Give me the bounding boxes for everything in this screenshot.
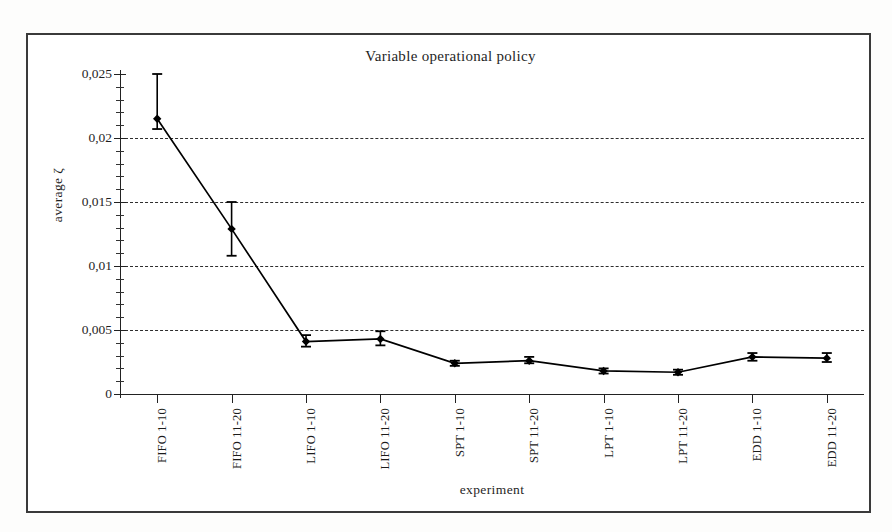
data-series [120, 74, 864, 394]
y-axis-tick-label: 0,015 [0, 195, 112, 209]
x-axis-tick [455, 394, 456, 403]
series-line [157, 119, 827, 372]
y-axis-tick-label: 0,02 [0, 131, 112, 145]
x-axis-tick-label: LIFO 1-10 [305, 408, 318, 464]
x-axis-tick-label: LPT 11-20 [677, 408, 690, 464]
plot-area: 0,0250,020,0150,010,0050 FIFO 1-10FIFO 1… [120, 74, 864, 394]
y-axis-tick-label: 0 [0, 387, 112, 401]
y-axis-tick-label: 0,005 [0, 323, 112, 337]
x-axis-tick-label: SPT 1-10 [454, 408, 467, 457]
x-axis-tick-label: SPT 11-20 [528, 408, 541, 463]
data-point-marker [823, 354, 831, 362]
x-axis-tick-label: EDD 11-20 [826, 408, 839, 467]
x-axis-tick [678, 394, 679, 403]
y-axis-tick-label: 0,01 [0, 259, 112, 273]
figure-frame: Variable operational policy average ζ 0,… [26, 33, 871, 513]
x-axis-tick [306, 394, 307, 403]
x-axis-tick-label: FIFO 11-20 [230, 408, 243, 469]
x-axis-tick [157, 394, 158, 403]
data-point-marker [376, 335, 384, 343]
x-axis-title: experiment [120, 482, 864, 498]
x-axis-tick [529, 394, 530, 403]
x-axis-tick-label: EDD 1-10 [751, 408, 764, 461]
y-axis-tick [114, 394, 126, 395]
x-axis-tick [380, 394, 381, 403]
chart-title: Variable operational policy [28, 48, 873, 65]
x-axis-tick [827, 394, 828, 403]
y-axis-tick-label: 0,025 [0, 67, 112, 81]
x-axis-tick [232, 394, 233, 403]
page-background: Variable operational policy average ζ 0,… [0, 0, 892, 532]
x-axis-tick [604, 394, 605, 403]
x-axis-tick [752, 394, 753, 403]
x-axis-tick-label: LPT 1-10 [602, 408, 615, 458]
x-axis-tick-label: FIFO 1-10 [156, 408, 169, 463]
x-axis-tick-label: LIFO 11-20 [379, 408, 392, 470]
